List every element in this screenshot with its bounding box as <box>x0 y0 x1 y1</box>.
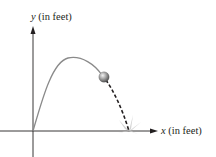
y-axis-arrow-icon <box>31 26 36 34</box>
y-axis <box>31 26 36 157</box>
y-axis-variable: y <box>31 11 36 22</box>
trajectory-curve <box>33 57 102 131</box>
dashed-trajectory <box>106 80 129 131</box>
x-axis-variable: x <box>161 125 166 136</box>
ball-icon <box>99 72 109 82</box>
y-axis-unit: (in feet) <box>38 11 72 22</box>
x-axis-arrow-icon <box>150 129 158 134</box>
x-axis-label: x (in feet) <box>161 126 202 137</box>
x-axis-unit: (in feet) <box>168 125 202 136</box>
y-axis-label: y (in feet) <box>31 12 72 23</box>
